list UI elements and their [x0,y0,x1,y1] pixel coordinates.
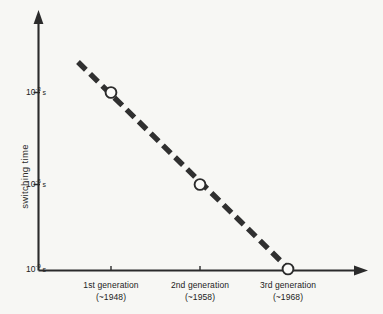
switching-time-chart: switching time 10-3s 10-6s 10-9s 1st gen… [0,0,383,314]
y-axis-title: switching time [19,122,30,232]
x-tick-label-0-main: 1st generation [83,280,138,290]
x-tick-label-0-sub: (~1948) [63,291,159,303]
arrow-up-icon [34,10,44,24]
y-tick-label-1: 10-6s [0,178,46,189]
x-tick-label-2-main: 3rd generation [260,280,316,290]
x-tick-label-2: 3rd generation (~1968) [240,279,336,303]
y-tick-label-2: 10-9s [0,263,46,274]
data-point-marker-0 [106,87,117,98]
x-tick-label-2-sub: (~1968) [240,291,336,303]
y-tick-exponent-1: -6 [36,178,41,184]
y-tick-label-0: 10-3s [0,86,46,97]
x-tick-label-1-sub: (~1958) [152,291,248,303]
x-tick-label-1-main: 2nd generation [171,280,229,290]
y-tick-mantissa-2: 10 [26,264,36,274]
y-tick-mantissa-0: 10 [26,87,36,97]
y-tick-unit-1: s [42,181,46,188]
y-tick-unit-0: s [42,89,46,96]
y-tick-exponent-0: -3 [36,86,41,92]
y-tick-unit-2: s [42,266,46,273]
data-point-marker-1 [195,179,206,190]
data-point-marker-2 [283,264,294,275]
x-tick-label-1: 2nd generation (~1958) [152,279,248,303]
x-tick-label-0: 1st generation (~1948) [63,279,159,303]
y-tick-exponent-2: -9 [36,263,41,269]
y-tick-mantissa-1: 10 [26,179,36,189]
arrow-right-icon [354,265,368,275]
plot-area [0,0,383,314]
